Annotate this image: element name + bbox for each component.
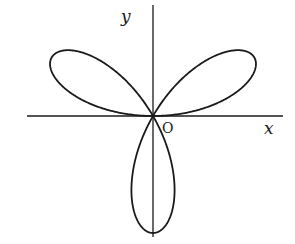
rose-curve-diagram (0, 0, 295, 244)
x-axis-label: x (264, 120, 274, 137)
y-axis-label: y (121, 8, 131, 25)
origin-label: O (162, 121, 173, 135)
